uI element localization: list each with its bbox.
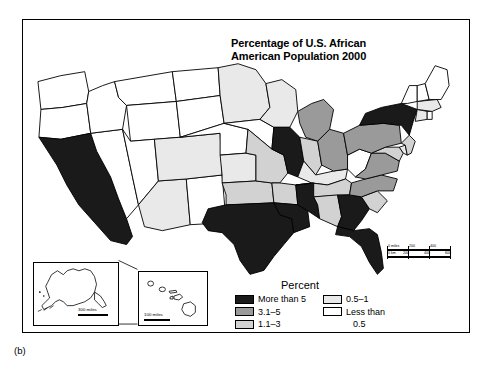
island-lanai <box>170 296 173 299</box>
legend-swatch-1-1-to-3 <box>235 320 254 329</box>
legend-label-3-1-to-5: 3.1–5 <box>258 307 281 317</box>
scale-label-km-200: 200 <box>403 251 409 255</box>
island-maui <box>174 294 183 300</box>
state-CO <box>154 133 222 181</box>
hawaii-scale-bar: 100 miles <box>144 312 174 324</box>
state-WA <box>38 72 89 110</box>
scale-label-km-0: 0 km <box>388 251 396 255</box>
hawaii-scale-line <box>144 319 170 321</box>
state-MT <box>115 72 177 106</box>
scale-bar-km-line <box>387 256 451 258</box>
inset-hawaii: 100 miles <box>138 271 208 326</box>
island-dot-1 <box>39 291 41 293</box>
figure-panel: .st{stroke:#000;stroke-width:0.9;stroke-… <box>0 0 494 366</box>
legend-label-less-than-value: 0.5 <box>353 319 385 329</box>
legend-swatch-more-than-5 <box>235 295 254 304</box>
scale-label-km-600: 600 <box>445 251 451 255</box>
state-VT <box>401 86 417 104</box>
island-oahu <box>159 287 165 292</box>
legend-item-less-than-0-5: Less than <box>323 307 385 317</box>
legend-column-left: More than 5 3.1–5 1.1–3 <box>235 294 306 332</box>
legend-label-less-than: Less than <box>346 307 385 317</box>
legend-item-3-1-to-5: 3.1–5 <box>235 307 306 317</box>
scale-label-km-400: 400 <box>424 251 430 255</box>
legend-label-0-5-to-1: 0.5–1 <box>346 294 369 304</box>
state-FL <box>336 227 384 275</box>
island-molokai <box>169 290 177 293</box>
map-legend: Percent More than 5 3.1–5 1.1–3 <box>229 279 405 333</box>
state-AR <box>272 183 298 205</box>
map-scale-bar: 0 miles 200 400 0 km 200 400 600 <box>387 242 457 262</box>
state-MN <box>218 64 270 124</box>
legend-swatch-3-1-to-5 <box>235 307 254 316</box>
island-dot-2 <box>43 295 45 297</box>
scale-label-miles-0: 0 miles <box>388 244 399 248</box>
legend-label-more-than-5: More than 5 <box>258 294 306 304</box>
state-OR <box>39 103 91 139</box>
legend-item-1-1-to-3: 1.1–3 <box>235 319 306 329</box>
map-frame: .st{stroke:#000;stroke-width:0.9;stroke-… <box>22 19 470 333</box>
state-ME <box>425 66 449 100</box>
inset-alaska: 300 miles <box>33 262 119 326</box>
legend-title: Percent <box>255 279 345 291</box>
scale-label-miles-200: 200 <box>409 244 415 248</box>
scale-bar-miles-line <box>387 249 451 251</box>
island-kauai <box>148 281 154 286</box>
state-RI <box>427 111 432 119</box>
legend-swatch-0-5-to-1 <box>323 295 342 304</box>
state-AK-shape <box>42 269 97 310</box>
legend-column-right: 0.5–1 Less than 0.5 <box>323 294 385 329</box>
alaska-scale-bar: 300 miles <box>78 307 112 319</box>
legend-swatch-less-than-0-5 <box>323 307 342 316</box>
alaska-scale-label: 300 miles <box>78 307 97 312</box>
scale-label-miles-400: 400 <box>430 244 436 248</box>
state-WY <box>127 101 181 141</box>
legend-item-more-than-5: More than 5 <box>235 294 306 304</box>
southeast-ak-panhandle <box>95 292 107 308</box>
legend-label-1-1-to-3: 1.1–3 <box>258 319 281 329</box>
state-OK <box>222 181 274 205</box>
hawaii-scale-label: 100 miles <box>144 312 163 317</box>
island-hawaii-big-island <box>182 302 196 316</box>
legend-item-0-5-to-1: 0.5–1 <box>323 294 385 304</box>
alaska-scale-line <box>78 314 108 316</box>
figure-caption: (b) <box>14 345 26 356</box>
state-CT <box>415 109 427 121</box>
state-KS <box>220 153 256 183</box>
